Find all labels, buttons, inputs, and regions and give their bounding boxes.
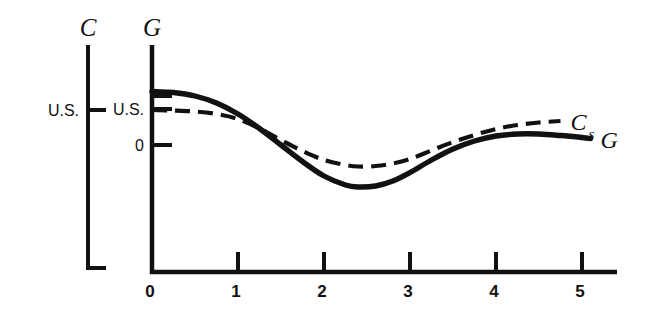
- curve-labels-group: C s G: [571, 109, 618, 153]
- g-axis-group: G U.S. 0: [113, 14, 172, 274]
- x-tick-label-2: 2: [317, 282, 326, 301]
- data-curves: [152, 92, 591, 188]
- curve-label-g: G: [601, 127, 618, 153]
- g-axis-title: G: [143, 14, 161, 41]
- curve-g-solid: [152, 92, 591, 188]
- x-axis-group: 0 1 2 3 4 5: [145, 252, 617, 301]
- x-tick-label-5: 5: [575, 282, 584, 301]
- c-axis-title: C: [80, 14, 97, 41]
- g-axis-us-label: U.S.: [113, 101, 144, 118]
- c-axis-line: [88, 45, 106, 268]
- g-axis-zero-label: 0: [135, 137, 144, 154]
- x-tick-label-0: 0: [145, 282, 154, 301]
- c-axis-us-label: U.S.: [48, 102, 79, 119]
- c-axis-group: C U.S.: [48, 14, 106, 268]
- curve-cs-dashed: [152, 110, 561, 167]
- chart-canvas: C U.S. G U.S. 0 0 1 2 3 4 5: [0, 0, 650, 319]
- x-tick-label-1: 1: [231, 282, 240, 301]
- x-tick-label-3: 3: [403, 282, 412, 301]
- curve-label-cs: C: [571, 109, 588, 135]
- x-tick-label-4: 4: [489, 282, 499, 301]
- figure-root: C U.S. G U.S. 0 0 1 2 3 4 5: [0, 0, 650, 319]
- curve-label-cs-subscript: s: [589, 126, 595, 142]
